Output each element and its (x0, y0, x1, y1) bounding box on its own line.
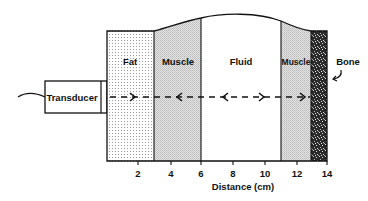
tick-label-14: 14 (322, 168, 333, 179)
label-muscle-2: Muscle (282, 57, 311, 67)
axis-label: Distance (cm) (212, 181, 274, 192)
tick-label-6: 6 (198, 168, 203, 179)
label-fluid: Fluid (230, 56, 253, 67)
transducer-label: Transducer (46, 92, 98, 103)
tick-label-8: 8 (230, 168, 235, 179)
layer-fat (107, 31, 154, 161)
label-muscle-1: Muscle (162, 56, 194, 67)
tick-label-12: 12 (292, 168, 303, 179)
layer-muscle-1 (154, 18, 201, 161)
layer-fluid (201, 14, 281, 161)
bone-pointer-arrow-icon (333, 70, 341, 81)
tissue-diagram: Transducer Fat Muscle Fluid Muscle Bone (0, 0, 368, 201)
label-bone: Bone (336, 56, 360, 67)
layer-muscle-2 (281, 21, 311, 161)
tick-label-10: 10 (260, 168, 271, 179)
layer-bone (311, 31, 327, 161)
tick-label-2: 2 (135, 168, 140, 179)
tick-label-4: 4 (168, 168, 174, 179)
transducer-cable (18, 93, 45, 97)
label-fat: Fat (123, 56, 138, 67)
